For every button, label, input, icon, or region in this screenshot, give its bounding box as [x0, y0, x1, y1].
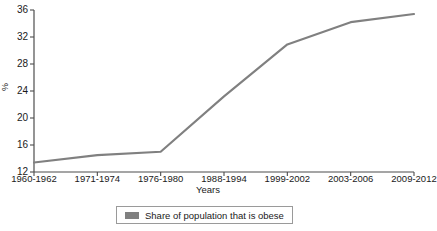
- x-axis-title: Years: [196, 184, 220, 195]
- y-tick-labels: 12162024283236: [8, 0, 28, 196]
- y-tick-label: 24: [8, 86, 28, 96]
- x-tick-label: 1971-1974: [75, 173, 120, 184]
- legend-label: Share of population that is obese: [145, 210, 284, 221]
- y-tick-label: 20: [8, 113, 28, 123]
- y-tick-label: 32: [8, 32, 28, 42]
- y-tick-label: 16: [8, 140, 28, 150]
- legend-swatch-icon: [125, 212, 139, 219]
- y-tick-label: 36: [8, 5, 28, 15]
- plot-svg: [0, 0, 426, 196]
- x-tick-label: 2009-2012: [391, 173, 436, 184]
- y-tick-label: 28: [8, 59, 28, 69]
- x-tick-label: 1976-1980: [138, 173, 183, 184]
- series-line-obese-share: [34, 14, 414, 163]
- plot-area: % 12162024283236 1960-19621971-19741976-…: [0, 0, 426, 196]
- x-tick-label: 1960-1962: [11, 173, 56, 184]
- x-tick-label: 2003-2006: [328, 173, 373, 184]
- x-tick-label: 1999-2002: [265, 173, 310, 184]
- x-tick-label: 1988-1994: [201, 173, 246, 184]
- chart-legend: Share of population that is obese: [116, 206, 293, 224]
